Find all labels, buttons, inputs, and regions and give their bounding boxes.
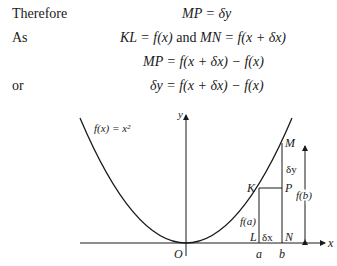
point-m: M [284, 136, 296, 150]
y-axis-label: y [177, 108, 183, 120]
parabola-figure: f(x) = x² y x O K L M N P a b δy δx f(a)… [0, 0, 337, 266]
x-axis-label: x [327, 236, 334, 250]
delta-x-label: δx [262, 231, 273, 243]
point-k: K [246, 181, 256, 195]
origin-label: O [174, 247, 183, 261]
delta-y-label: δy [286, 163, 297, 175]
tick-b: b [279, 247, 285, 261]
point-p: P [284, 181, 293, 195]
point-n: N [284, 230, 294, 244]
point-l: L [249, 230, 257, 244]
tick-a: a [256, 247, 262, 261]
fa-label: f(a) [240, 215, 256, 228]
curve-label: f(x) = x² [94, 122, 131, 135]
fb-label: f(b) [296, 189, 312, 202]
